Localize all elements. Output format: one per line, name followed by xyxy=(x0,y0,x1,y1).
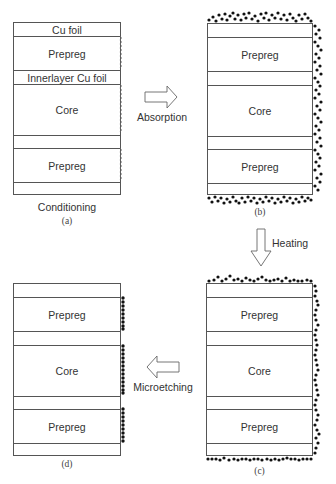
sublabel-d: (d) xyxy=(13,459,121,469)
selective-particles-icon xyxy=(0,0,336,484)
